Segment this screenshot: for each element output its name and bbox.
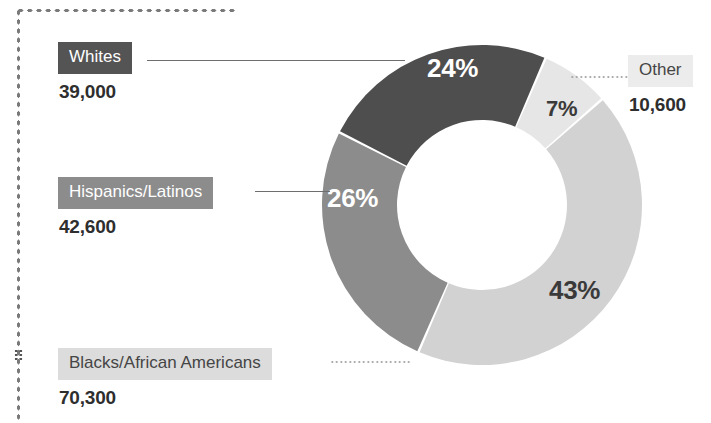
leader-line-other xyxy=(570,76,630,78)
callout-blacks-african-americans: Blacks/African Americans 70,300 xyxy=(58,348,272,409)
slice-percent-other: 7% xyxy=(546,96,577,122)
leader-line-blacks-african-americans xyxy=(330,361,412,363)
chart-canvas: 24% 7% 43% 26% Whites 39,000 Hispanics/L… xyxy=(0,0,711,423)
callout-label-whites: Whites xyxy=(58,42,132,74)
callout-label-hispanics-latinos: Hispanics/Latinos xyxy=(58,177,213,209)
callout-whites: Whites 39,000 xyxy=(58,42,132,103)
callout-label-blacks-african-americans: Blacks/African Americans xyxy=(58,348,272,380)
slice-percent-blacks-african-americans: 43% xyxy=(549,275,600,306)
callout-label-other: Other xyxy=(628,55,693,87)
slice-percent-whites: 24% xyxy=(427,53,478,84)
callout-count-whites: 39,000 xyxy=(59,81,132,103)
leader-line-hispanics-latinos xyxy=(255,191,330,192)
callout-count-other: 10,600 xyxy=(629,94,693,116)
donut-slice xyxy=(420,100,642,365)
slice-percent-hispanics-latinos: 26% xyxy=(327,183,378,214)
leader-line-whites xyxy=(147,60,405,61)
callout-other: Other 10,600 xyxy=(628,55,693,116)
callout-count-blacks-african-americans: 70,300 xyxy=(59,387,272,409)
donut-slice xyxy=(322,133,448,351)
callout-hispanics-latinos: Hispanics/Latinos 42,600 xyxy=(58,177,213,238)
callout-count-hispanics-latinos: 42,600 xyxy=(59,216,213,238)
